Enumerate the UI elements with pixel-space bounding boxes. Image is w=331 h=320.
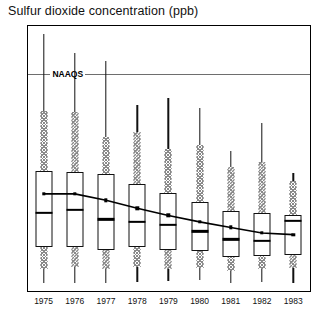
mean-trend-line bbox=[28, 26, 310, 291]
x-axis-tick-label: 1977 bbox=[97, 297, 116, 306]
mean-marker bbox=[42, 192, 45, 195]
mean-marker bbox=[229, 226, 232, 229]
page-title: Sulfur dioxide concentration (ppb) bbox=[8, 4, 198, 18]
x-axis-tick-label: 1975 bbox=[34, 297, 53, 306]
mean-marker bbox=[104, 199, 107, 202]
x-axis-tick-label: 1976 bbox=[65, 297, 84, 306]
plot-area: 5101520253035 NAAQS 19751976197719781979… bbox=[27, 25, 311, 292]
figure: Sulfur dioxide concentration (ppb) 51015… bbox=[0, 0, 331, 320]
plot-inner: 5101520253035 NAAQS bbox=[28, 26, 310, 291]
x-axis-tick-label: 1982 bbox=[253, 297, 272, 306]
x-axis-tick-label: 1980 bbox=[190, 297, 209, 306]
x-axis-tick-label: 1981 bbox=[221, 297, 240, 306]
mean-marker bbox=[73, 192, 76, 195]
x-axis-tick-label: 1979 bbox=[159, 297, 178, 306]
x-axis-tick-label: 1983 bbox=[284, 297, 303, 306]
x-axis-tick-label: 1978 bbox=[128, 297, 147, 306]
mean-marker bbox=[198, 220, 201, 223]
mean-marker bbox=[291, 233, 294, 236]
mean-marker bbox=[260, 231, 263, 234]
mean-marker bbox=[167, 214, 170, 217]
mean-marker bbox=[135, 207, 138, 210]
